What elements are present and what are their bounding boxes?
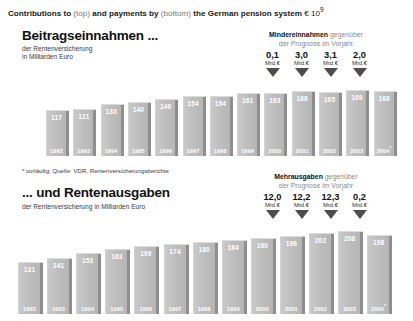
bar-2000: 1902000 xyxy=(251,238,276,314)
annotation-bottom-values: 12,0 Mrd.€ 12,2 Mrd.€ 12,3 Mrd.€ 0,2 Mrd… xyxy=(258,192,374,219)
bar-shadow xyxy=(257,94,260,156)
bar-value-label: 165 xyxy=(320,96,339,103)
chart-beitragseinnahmen: 1171992121199313319941401995146199615419… xyxy=(0,84,413,156)
annotation-top-value: 3,1 xyxy=(316,50,345,60)
bar-shadow xyxy=(312,92,315,156)
bar-2003: 1692003 xyxy=(346,90,369,156)
annotation-mindereinnahmen: Mindereinnahmen gegenüber der Prognose i… xyxy=(258,31,374,77)
bar-value-label: 208 xyxy=(339,235,360,242)
bar-shadow xyxy=(389,236,392,314)
bar-shadow xyxy=(66,111,69,156)
bar-year-label: 1996 xyxy=(135,306,156,312)
source-note: * vorläufig; Quelle: VDR, Rentenversiche… xyxy=(22,167,169,174)
bar-shadow xyxy=(215,243,218,314)
annotation-bottom-cell: 12,3 Mrd.€ xyxy=(316,192,345,219)
bar-2002: 2022002 xyxy=(309,233,334,314)
top-subtitle-line-2: in Milliarden Euro xyxy=(22,53,92,61)
bar-1995: 1631995 xyxy=(105,249,130,314)
arrow-down-icon xyxy=(324,210,338,219)
top-subtitle-line-1: der Rentenversicherung xyxy=(22,45,92,53)
bar-value-label: 196 xyxy=(281,240,302,247)
bar-2000: 1632000 xyxy=(264,93,287,156)
bar-shadow xyxy=(394,92,397,156)
provisional-marker: * xyxy=(384,303,386,309)
bar-1994: 1331994 xyxy=(101,104,124,156)
annotation-top-value: 2,0 xyxy=(345,50,374,60)
annotation-bottom-unit: Mrd.€ xyxy=(316,202,345,209)
bar-shadow xyxy=(186,245,189,314)
headline-part-1: Contributions to xyxy=(8,9,73,18)
annotation-bottom-cell: 12,2 Mrd.€ xyxy=(287,192,316,219)
headline-currency: € 10 xyxy=(304,9,320,18)
bar-value-label: 141 xyxy=(48,262,69,269)
bar-1996: 1461996 xyxy=(155,99,178,156)
bar-year-label: 1998 xyxy=(211,148,230,154)
bar-shadow xyxy=(331,234,334,314)
bar-1995: 1401995 xyxy=(128,102,151,156)
bar-shadow xyxy=(273,239,276,314)
bar-value-label: 163 xyxy=(106,253,127,260)
bar-shadow xyxy=(40,263,43,314)
bar-year-label: 1993 xyxy=(74,148,93,154)
arrow-down-icon xyxy=(353,68,367,77)
annotation-bottom-subline: der Prognose im Vorjahr xyxy=(258,182,374,191)
headline-top-qualifier: (top) xyxy=(73,9,90,18)
bar-value-label: 169 xyxy=(135,250,156,257)
bar-1996: 1691996 xyxy=(134,246,159,314)
bar-year-label: 1995 xyxy=(106,306,127,312)
annotation-top-cell: 3,0 Mrd.€ xyxy=(287,50,316,77)
bar-year-label: 2004* xyxy=(375,145,394,154)
annotation-bottom-heading: Mehrausgaben gegenüber xyxy=(258,173,374,182)
bar-2004: 1982004* xyxy=(367,235,392,314)
bar-2004: 1682004* xyxy=(374,91,397,156)
bar-value-label: 146 xyxy=(156,103,175,110)
annotation-bottom-cell: 12,0 Mrd.€ xyxy=(258,192,287,219)
bar-value-label: 117 xyxy=(47,114,66,121)
headline-part-2: and payments by xyxy=(90,9,161,18)
bar-value-label: 169 xyxy=(347,94,366,101)
bar-year-label: 2001 xyxy=(293,148,312,154)
bar-year-label: 2004* xyxy=(368,303,389,312)
annotation-top-heading-bold: Mindereinnahmen xyxy=(269,31,328,38)
bar-year-label: 1997 xyxy=(165,306,186,312)
bar-year-label: 1992 xyxy=(47,148,66,154)
annotation-top-subline: der Prognose im Vorjahr xyxy=(258,40,374,49)
bar-shadow xyxy=(69,259,72,314)
bar-year-label: 2000 xyxy=(265,148,284,154)
bar-shadow xyxy=(302,237,305,314)
bar-shadow xyxy=(127,250,130,314)
bar-value-label: 121 xyxy=(74,113,93,120)
bar-shadow xyxy=(366,91,369,156)
bar-value-label: 154 xyxy=(184,100,203,107)
bar-shadow xyxy=(98,254,101,314)
bar-1997: 1741997 xyxy=(164,244,189,314)
bar-year-label: 1993 xyxy=(48,306,69,312)
bar-value-label: 180 xyxy=(194,246,215,253)
annotation-top-cell: 2,0 Mrd.€ xyxy=(345,50,374,77)
bar-shadow xyxy=(121,105,124,156)
bar-year-label: 2001 xyxy=(281,306,302,312)
bar-year-label: 2003 xyxy=(347,148,366,154)
arrow-down-icon xyxy=(295,68,309,77)
infographic-canvas: Contributions to (top) and payments by (… xyxy=(0,0,413,321)
bar-value-label: 198 xyxy=(368,239,389,246)
annotation-top-heading: Mindereinnahmen gegenüber xyxy=(258,31,374,40)
bottom-subtitle-line-1: der Rentenversicherung in Milliarden Eur… xyxy=(22,203,145,211)
bar-1992: 1171992 xyxy=(46,110,69,156)
arrow-down-icon xyxy=(295,210,309,219)
annotation-top-unit: Mrd.€ xyxy=(258,60,287,67)
bar-shadow xyxy=(339,93,342,156)
annotation-top-value: 3,0 xyxy=(287,50,316,60)
headline-exponent: 9 xyxy=(320,6,324,13)
bar-year-label: 1998 xyxy=(194,306,215,312)
bar-1999: 1611999 xyxy=(237,93,260,156)
bar-year-label: 1996 xyxy=(156,148,175,154)
bar-value-label: 168 xyxy=(375,95,394,102)
chart-rentenausgaben: 1311992141199315319941631995169199617419… xyxy=(0,224,413,314)
annotation-bottom-unit: Mrd.€ xyxy=(258,202,287,209)
annotation-top-cell: 0,1 Mrd.€ xyxy=(258,50,287,77)
bar-1998: 1541998 xyxy=(210,96,233,156)
bar-year-label: 1994 xyxy=(77,306,98,312)
bar-shadow xyxy=(156,247,159,314)
bar-year-label: 1999 xyxy=(223,306,244,312)
